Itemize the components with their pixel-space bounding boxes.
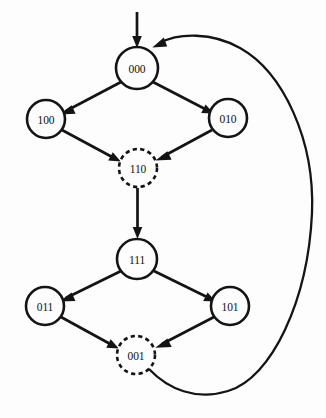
node-110[interactable]: 110 <box>119 149 157 187</box>
node-011-label: 011 <box>37 301 54 313</box>
node-101[interactable]: 101 <box>211 287 249 325</box>
node-000-label: 000 <box>129 63 146 75</box>
edge-layer <box>59 12 312 395</box>
node-100-label: 100 <box>38 114 55 126</box>
edge-110-to-111 <box>133 188 143 239</box>
edge-010-to-110 <box>155 130 212 161</box>
node-001-label: 001 <box>128 350 145 362</box>
edge-000-to-100 <box>60 82 122 114</box>
node-011[interactable]: 011 <box>26 287 64 325</box>
node-101-label: 101 <box>222 301 239 313</box>
edge-101-to-001 <box>155 317 214 348</box>
edge-111-to-101 <box>154 271 216 302</box>
edge-111-to-011 <box>59 271 121 302</box>
node-111-label: 111 <box>129 254 145 266</box>
edge-100-to-110 <box>62 130 121 162</box>
state-diagram-svg: 000 100 010 110 111 <box>0 0 326 418</box>
edge-start-to-000 <box>132 12 142 48</box>
arrowhead-001-to-000-feedback <box>152 38 167 48</box>
node-010-label: 010 <box>220 113 237 125</box>
edge-011-to-001 <box>61 317 119 349</box>
node-000[interactable]: 000 <box>116 47 158 89</box>
node-010[interactable]: 010 <box>209 99 247 137</box>
node-001[interactable]: 001 <box>117 336 155 374</box>
node-110-label: 110 <box>130 163 147 175</box>
state-diagram-canvas: 000 100 010 110 111 <box>0 0 326 418</box>
node-111[interactable]: 111 <box>117 239 157 279</box>
edge-001-to-000-feedback <box>149 36 312 395</box>
arrowhead-110-to-111 <box>133 227 143 239</box>
edge-000-to-010 <box>153 82 214 114</box>
node-100[interactable]: 100 <box>27 100 65 138</box>
